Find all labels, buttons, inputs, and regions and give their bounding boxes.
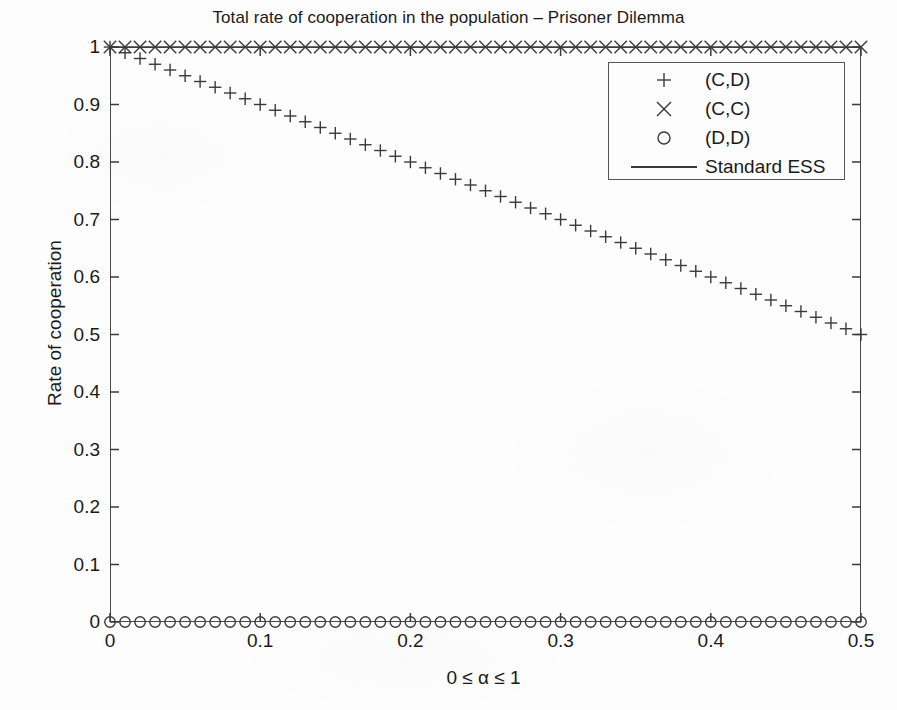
x-tick-label: 0.3 (547, 631, 573, 650)
legend-circle-icon (609, 123, 705, 152)
y-tick-label: 0.1 (74, 555, 100, 574)
chart-title: Total rate of cooperation in the populat… (0, 8, 897, 28)
y-tick-label: 0 (89, 612, 100, 631)
y-tick-label: 0.7 (74, 210, 100, 229)
x-tick-label: 0.2 (397, 631, 423, 650)
legend-line-icon (609, 152, 705, 181)
x-axis-tick-labels: 00.10.20.30.40.5 (0, 631, 897, 657)
y-tick-label: 0.9 (74, 95, 100, 114)
x-axis-label-text: 0 ≤ α ≤ 1 (376, 667, 520, 688)
legend-item: (C,D) (609, 65, 844, 94)
x-tick-label: 0.4 (698, 631, 724, 650)
chart-legend: (C,D)(C,C)(D,D)Standard ESS (608, 62, 845, 180)
legend-item: (C,C) (609, 94, 844, 123)
chart-figure: Total rate of cooperation in the populat… (0, 0, 897, 710)
x-axis-label: 0 ≤ α ≤ 1 (0, 667, 897, 689)
x-tick-label: 0 (105, 631, 116, 650)
y-axis-label: Rate of cooperation (44, 23, 66, 623)
x-tick-label: 0.1 (247, 631, 273, 650)
series-d-d (105, 617, 866, 627)
y-tick-label: 0.8 (74, 152, 100, 171)
legend-label: (C,D) (705, 69, 750, 91)
legend-plus-icon (609, 65, 705, 94)
y-tick-label: 1 (89, 37, 100, 56)
y-tick-label: 0.3 (74, 440, 100, 459)
legend-item: Standard ESS (609, 152, 844, 181)
y-tick-label: 0.5 (74, 325, 100, 344)
x-tick-label: 0.5 (848, 631, 874, 650)
legend-label: Standard ESS (705, 156, 825, 178)
legend-label: (D,D) (705, 127, 750, 149)
y-tick-label: 0.2 (74, 497, 100, 516)
legend-item: (D,D) (609, 123, 844, 152)
legend-label: (C,C) (705, 98, 750, 120)
y-tick-label: 0.4 (74, 382, 100, 401)
y-tick-label: 0.6 (74, 267, 100, 286)
legend-cross-icon (609, 94, 705, 123)
